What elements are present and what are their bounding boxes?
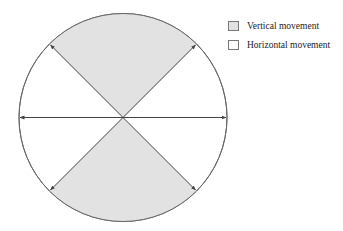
legend-swatch-shaded [228, 21, 239, 31]
legend-item-horizontal: Horizontal movement [228, 35, 330, 54]
legend-label: Vertical movement [247, 21, 319, 31]
legend: Vertical movement Horizontal movement [228, 16, 330, 54]
legend-label: Horizontal movement [247, 40, 330, 50]
legend-item-vertical: Vertical movement [228, 16, 330, 35]
legend-swatch-empty [228, 40, 239, 50]
